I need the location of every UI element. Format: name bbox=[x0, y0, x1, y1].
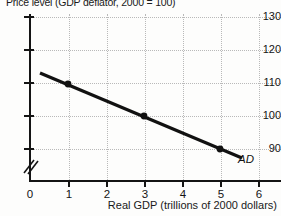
y-tick-label-110: 110 bbox=[257, 76, 281, 88]
y-tick-mark-120 bbox=[24, 49, 34, 51]
y-tick-label-90: 90 bbox=[257, 142, 281, 154]
y-axis-break-icon bbox=[21, 158, 39, 178]
x-tick-mark-5 bbox=[220, 180, 222, 187]
x-tick-mark-4 bbox=[182, 180, 184, 187]
x-axis-title: Real GDP (trillions of 2000 dollars) bbox=[0, 199, 281, 211]
x-axis-line bbox=[29, 180, 281, 182]
x-tick-mark-3 bbox=[144, 180, 146, 187]
y-axis-line bbox=[29, 14, 31, 182]
chart-title: Price level (GDP deflator, 2000 = 100) bbox=[6, 0, 175, 8]
gridline-vertical-3 bbox=[145, 14, 146, 180]
gridline-vertical-5 bbox=[221, 14, 222, 180]
x-tick-mark-2 bbox=[106, 180, 108, 187]
chart-figure: Price level (GDP deflator, 2000 = 100) 1… bbox=[0, 0, 281, 216]
gridline-horizontal-130 bbox=[30, 17, 281, 18]
gridline-horizontal-110 bbox=[30, 83, 281, 84]
y-tick-mark-110 bbox=[24, 82, 34, 84]
y-tick-mark-130 bbox=[24, 16, 34, 18]
y-tick-label-120: 120 bbox=[257, 43, 281, 55]
x-tick-mark-1 bbox=[68, 180, 70, 187]
gridline-vertical-2 bbox=[107, 14, 108, 180]
gridline-horizontal-120 bbox=[30, 50, 281, 51]
gridline-horizontal-90 bbox=[30, 149, 281, 150]
gridline-vertical-4 bbox=[183, 14, 184, 180]
gridline-horizontal-100 bbox=[30, 116, 281, 117]
gridline-vertical-1 bbox=[69, 14, 70, 180]
y-tick-label-130: 130 bbox=[257, 10, 281, 22]
ad-curve-label: AD bbox=[238, 153, 254, 165]
y-tick-mark-100 bbox=[24, 115, 34, 117]
x-tick-mark-6 bbox=[258, 180, 260, 187]
gridline-vertical-6 bbox=[259, 14, 260, 180]
y-tick-label-100: 100 bbox=[257, 109, 281, 121]
y-tick-mark-90 bbox=[24, 148, 34, 150]
